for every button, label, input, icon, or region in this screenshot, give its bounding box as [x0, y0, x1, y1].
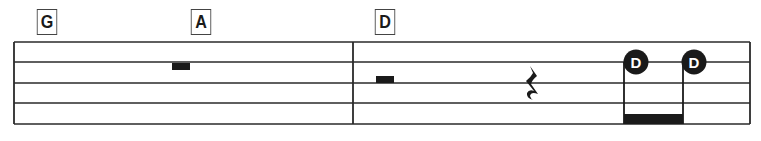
- note-label: D: [631, 54, 642, 71]
- rhythm-staff: D D: [0, 0, 761, 141]
- note-label: D: [689, 54, 700, 71]
- beamed-eighth-notes: D D: [624, 50, 707, 125]
- half-rest-icon: [376, 76, 394, 83]
- note-beam: [624, 114, 683, 124]
- half-rest-icon: [172, 63, 190, 70]
